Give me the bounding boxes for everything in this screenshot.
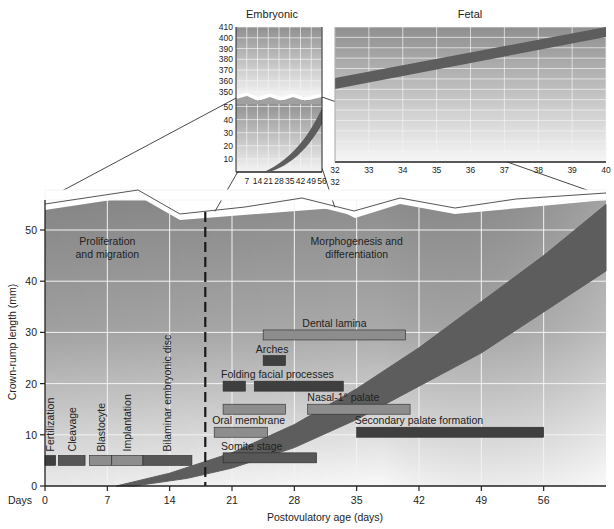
event-bar — [254, 381, 343, 391]
phase-label: and migration — [76, 248, 140, 260]
x-tick-label: 0 — [42, 494, 48, 506]
inset-embryonic-y-ticks-upper: 350360370380390400410 — [219, 22, 233, 97]
event-bar-label: Somite stage — [221, 440, 282, 452]
inset-x-tick-label: 36 — [466, 165, 476, 175]
x-axis-ticks: 0714212835424956 — [42, 486, 550, 506]
inset-y-tick-label: 10 — [224, 154, 234, 164]
x-tick-label: 7 — [104, 494, 110, 506]
y-tick-label: 20 — [25, 378, 37, 390]
event-bar-label: Secondary palate formation — [355, 414, 484, 426]
x-tick-label: 28 — [288, 494, 300, 506]
inset-x-tick-label: 14 — [253, 176, 263, 186]
inset-y-tick-label: 40 — [224, 115, 234, 125]
inset-embryonic-y-ticks-lower: 1020304050 — [224, 102, 234, 164]
x-tick-label: 49 — [475, 494, 487, 506]
x-tick-label: 21 — [226, 494, 238, 506]
x-axis-label: Postovulatory age (days) — [267, 511, 383, 523]
phase-label: differentiation — [325, 248, 388, 260]
inset-y-tick-label: 30 — [224, 128, 234, 138]
inset-x-tick-label: 42 — [296, 176, 306, 186]
y-axis-ticks: 01020304050 — [25, 224, 45, 492]
x-tick-label: 56 — [538, 494, 550, 506]
y-tick-label: 50 — [25, 224, 37, 236]
inset-y-tick-label: 390 — [219, 44, 233, 54]
event-bar: Fertilization — [44, 398, 56, 466]
y-tick-label: 10 — [25, 429, 37, 441]
x-axis-prefix: Days — [8, 494, 32, 506]
event-bar-label: Oral membrane — [212, 414, 285, 426]
x-tick-label: 14 — [164, 494, 176, 506]
inset-y-tick-label: 360 — [219, 76, 233, 86]
event-bar-label: Implantation — [121, 394, 133, 451]
phase-label: Morphogenesis and — [311, 235, 403, 247]
inset-fetal: Fetal 32333435363738394032 — [330, 8, 611, 187]
inset-y-tick-label: 350 — [219, 87, 233, 97]
event-bar-label: Bilaminar embryonic disc — [161, 335, 173, 452]
inset-x-tick-label: 7 — [244, 176, 249, 186]
inset-embryonic-title: Embryonic — [246, 8, 298, 20]
phase-label: Proliferation — [79, 235, 135, 247]
x-tick-label: 35 — [351, 494, 363, 506]
inset-x-secondary-label: 32 — [330, 177, 340, 187]
inset-y-tick-label: 50 — [224, 102, 234, 112]
inset-x-tick-label: 32 — [330, 165, 340, 175]
main-chart: FertilizationCleavageBlastocyteImplantat… — [6, 190, 606, 523]
event-bar-label: Folding facial processes — [221, 368, 334, 380]
event-bar-label: Dental lamina — [302, 317, 366, 329]
inset-x-tick-label: 40 — [601, 165, 611, 175]
inset-x-tick-label: 35 — [432, 165, 442, 175]
inset-x-tick-label: 33 — [364, 165, 374, 175]
inset-x-tick-label: 34 — [398, 165, 408, 175]
figure: Embryonic 350360370380390400410 10203040… — [0, 0, 614, 529]
inset-x-tick-label: 21 — [264, 176, 274, 186]
inset-x-tick-label: 39 — [567, 165, 577, 175]
inset-y-tick-label: 370 — [219, 65, 233, 75]
inset-fetal-title: Fetal — [458, 8, 482, 20]
y-tick-label: 40 — [25, 275, 37, 287]
event-bar-label: Fertilization — [44, 398, 56, 452]
inset-y-tick-label: 400 — [219, 33, 233, 43]
inset-x-tick-label: 35 — [285, 176, 295, 186]
inset-x-tick-label: 38 — [534, 165, 544, 175]
inset-x-tick-label: 56 — [317, 176, 327, 186]
event-bar — [308, 404, 410, 414]
event-bar-label: Blastocyte — [95, 403, 107, 452]
inset-embryonic: Embryonic 350360370380390400410 10203040… — [219, 8, 327, 199]
y-tick-label: 30 — [25, 326, 37, 338]
inset-x-tick-label: 49 — [307, 176, 317, 186]
event-bar-label: Cleavage — [66, 407, 78, 452]
x-tick-label: 42 — [413, 494, 425, 506]
inset-y-tick-label: 410 — [219, 22, 233, 32]
inset-x-tick-label: 37 — [500, 165, 510, 175]
y-axis-label: Crown-rump length (mm) — [6, 284, 18, 401]
y-tick-label: 0 — [31, 480, 37, 492]
inset-y-tick-label: 20 — [224, 141, 234, 151]
inset-y-tick-label: 380 — [219, 54, 233, 64]
inset-x-tick-label: 28 — [274, 176, 284, 186]
event-bar-label: Arches — [256, 343, 289, 355]
event-bar-label: Nasal-1° palate — [307, 391, 379, 403]
